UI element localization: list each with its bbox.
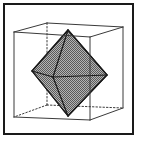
octahedron-in-cube-figure: Octahedron inscribed in a cube <box>0 0 141 143</box>
diagram-canvas <box>0 0 141 143</box>
